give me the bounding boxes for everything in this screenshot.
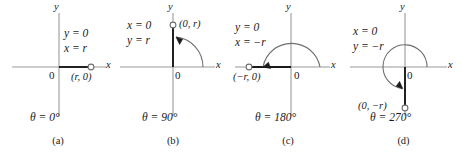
panel-caption: (c) [230, 135, 346, 146]
equation-secondary: x = r [64, 43, 87, 55]
equation-primary: y = 0 [235, 22, 259, 34]
angle-measure-label: θ = 180° [255, 112, 296, 124]
equation-primary: x = 0 [127, 20, 151, 32]
panel-c: y x 0 y = 0 x = −r (−r, 0) θ = 180° (c) [230, 0, 346, 152]
panel-d: y x 0 x = 0 y = −r (0, −r) θ = 270° (d) [345, 0, 462, 152]
equation-secondary: x = −r [235, 37, 266, 49]
panel-caption: (d) [345, 135, 462, 146]
panel-a-graphic [0, 0, 116, 152]
point-coordinate-label: (0, r) [179, 19, 201, 30]
origin-label: 0 [294, 70, 300, 81]
origin-label: 0 [407, 70, 413, 81]
angle-measure-label: θ = 0° [30, 112, 60, 124]
point-marker [88, 64, 94, 70]
x-axis-label: x [216, 60, 221, 71]
angle-measure-label: θ = 270° [370, 112, 411, 124]
y-axis-label: y [286, 2, 291, 13]
panel-caption: (b) [115, 135, 231, 146]
x-axis-label: x [106, 60, 111, 71]
equation-primary: y = 0 [64, 28, 88, 40]
equation-secondary: y = −r [353, 41, 384, 53]
panel-b: y x 0 x = 0 y = r (0, r) θ = 90° (b) [115, 0, 231, 152]
quadrantal-angles-figure: y x 0 y = 0 x = r (r, 0) θ = 0° (a) y x … [0, 0, 462, 152]
point-marker [246, 64, 252, 70]
x-axis-label: x [331, 60, 336, 71]
point-coordinate-label: (r, 0) [71, 72, 91, 83]
y-axis-label: y [54, 2, 59, 13]
origin-label: 0 [49, 70, 55, 81]
x-axis-label: x [448, 60, 453, 71]
equation-secondary: y = r [127, 35, 150, 47]
point-coordinate-label: (−r, 0) [233, 72, 261, 83]
y-axis-label: y [400, 2, 405, 13]
origin-label: 0 [175, 70, 181, 81]
panel-d-graphic [345, 0, 462, 152]
equation-primary: x = 0 [353, 26, 377, 38]
panel-caption: (a) [0, 135, 116, 146]
panel-a: y x 0 y = 0 x = r (r, 0) θ = 0° (a) [0, 0, 116, 152]
angle-measure-label: θ = 90° [142, 112, 177, 124]
y-axis-label: y [168, 2, 173, 13]
point-coordinate-label: (0, −r) [358, 101, 387, 112]
point-marker [170, 22, 176, 28]
